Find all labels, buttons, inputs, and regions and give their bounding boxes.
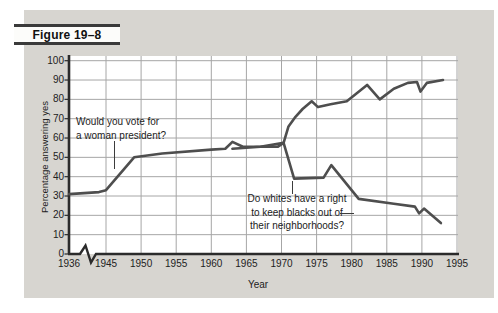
x-tick-label: 1950 — [124, 258, 158, 270]
x-tick-label: 1980 — [335, 258, 369, 270]
annotation-leader-line — [340, 213, 354, 214]
x-axis-title: Year — [248, 279, 268, 290]
annotation-woman-president: Would you vote for a woman president? — [76, 115, 166, 142]
annotation-leader-line — [114, 141, 115, 169]
annotation-keep-blacks-out: Do whites have a right to keep blacks ou… — [244, 192, 350, 233]
y-tick-label: 20 — [34, 209, 64, 221]
x-tick-label: 1995 — [440, 258, 474, 270]
x-tick-label: 1975 — [300, 258, 334, 270]
x-tick-label: 1960 — [194, 258, 228, 270]
x-tick-label: 1965 — [229, 258, 263, 270]
y-tick-label: 40 — [34, 171, 64, 183]
annotation-leader-line — [292, 181, 293, 194]
x-tick-label: 1955 — [159, 258, 193, 270]
y-tick-label: 30 — [34, 190, 64, 202]
x-tick-label: 1985 — [370, 258, 404, 270]
y-tick-label: 90 — [34, 74, 64, 86]
y-tick-label: 50 — [34, 151, 64, 163]
x-tick-label: 1990 — [405, 258, 439, 270]
x-tick-label: 1936 — [52, 258, 86, 270]
y-tick-label: 100 — [34, 55, 64, 67]
y-tick-label: 70 — [34, 113, 64, 125]
y-tick-label: 10 — [34, 229, 64, 241]
x-tick-label: 1970 — [265, 258, 299, 270]
y-tick-label: 60 — [34, 132, 64, 144]
y-tick-label: 80 — [34, 93, 64, 105]
figure-page: Figure 19–8 Percentage answering yes Yea… — [0, 0, 498, 313]
x-tick-label: 1945 — [89, 258, 123, 270]
